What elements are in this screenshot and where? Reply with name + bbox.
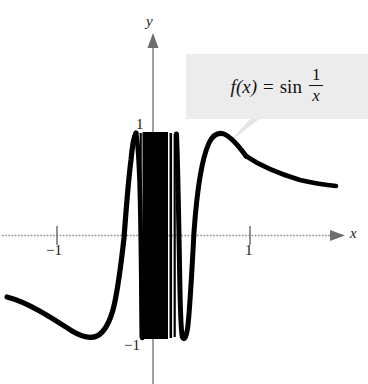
formula-equals-sign: = [262, 76, 275, 98]
y-axis-arrowhead [148, 33, 159, 48]
band-strand-left-1 [140, 133, 142, 338]
y-axis-label: y [146, 14, 153, 29]
y-tick-label-neg1: −1 [124, 338, 140, 353]
curve-left-tail [7, 133, 136, 337]
x-tick-label-neg1: −1 [46, 243, 62, 258]
function-plot-figure: y x −1 1 1 −1 f(x) = sin 1 x [0, 0, 368, 384]
x-axis-label: x [350, 226, 357, 241]
formula-numerator: 1 [309, 66, 324, 84]
curve-right-tail [246, 156, 336, 186]
formula-lhs: f(x) [231, 76, 257, 98]
y-tick-label-pos1: 1 [136, 117, 144, 132]
x-axis-arrowhead [330, 230, 345, 241]
formula-sin-function: sin [280, 76, 304, 98]
x-tick-label-pos1: 1 [245, 243, 253, 258]
formula-callout-box: f(x) = sin 1 x [186, 54, 368, 119]
dense-oscillation-band [140, 132, 176, 339]
band-strand-right-1 [170, 133, 173, 338]
band-core [143, 132, 169, 339]
formula-expression: f(x) = sin 1 x [231, 67, 324, 106]
formula-fraction: 1 x [309, 66, 324, 105]
formula-denominator: x [309, 87, 323, 105]
